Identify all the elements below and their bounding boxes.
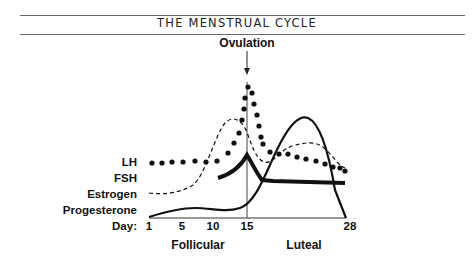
cycle-chart — [0, 0, 474, 269]
fsh-curve — [218, 155, 345, 183]
ovulation-arrowhead-icon — [244, 68, 250, 75]
